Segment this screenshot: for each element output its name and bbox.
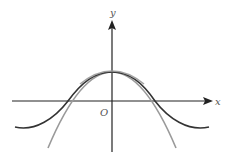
y-axis-label: y [109,7,116,18]
diagram-canvas: y x O [0,0,228,161]
x-axis-label: x [215,96,221,107]
origin-label: O [100,107,108,118]
